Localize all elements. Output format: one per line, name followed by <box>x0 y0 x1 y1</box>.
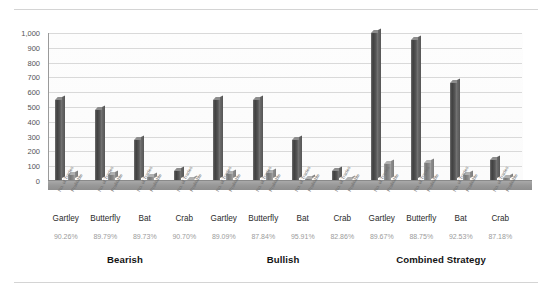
bar-side-face <box>418 36 421 178</box>
percent-label-7: 82.86% <box>330 233 354 240</box>
group-title-row: BearishBullishCombined Strategy <box>30 254 540 268</box>
category-label-7: Crab <box>333 214 351 223</box>
y-tick-label-400: 400 <box>0 117 40 126</box>
y-tick-label-0: 0 <box>0 177 40 186</box>
category-label-5: Butterfly <box>248 214 278 223</box>
bar-front-face <box>292 140 299 181</box>
bar-front-face <box>371 33 378 181</box>
y-tick-label-200: 200 <box>0 147 40 156</box>
bar-primary-9 <box>411 40 418 181</box>
y-tick-label-700: 700 <box>0 73 40 82</box>
percent-label-11: 87.18% <box>488 233 512 240</box>
group-title-bearish: Bearish <box>107 254 143 265</box>
category-label-1: Butterfly <box>90 214 120 223</box>
y-tick-label-800: 800 <box>0 58 40 67</box>
bar-side-face <box>260 95 263 178</box>
category-label-2: Bat <box>139 214 151 223</box>
category-label-row: GartleyButterflyBatCrabGartleyButterflyB… <box>30 214 540 227</box>
bar-primary-4 <box>213 100 220 181</box>
percent-label-10: 92.53% <box>449 233 473 240</box>
percent-label-8: 89.67% <box>370 233 394 240</box>
bar-front-face <box>95 110 102 181</box>
y-tick-label-900: 900 <box>0 43 40 52</box>
bar-primary-8 <box>371 33 378 181</box>
category-label-8: Gartley <box>369 214 395 223</box>
bar-front-face <box>490 160 497 181</box>
bar-series-container <box>48 33 522 181</box>
bar-primary-0 <box>55 100 62 181</box>
page-top-rule <box>14 9 538 10</box>
bar-primary-6 <box>292 140 299 181</box>
percent-label-0: 90.26% <box>54 233 78 240</box>
bar-primary-10 <box>450 83 457 181</box>
bar-front-face <box>213 100 220 181</box>
chart-page: 01002003004005006007008009001,000 No. of… <box>0 0 552 292</box>
y-axis-tick-labels: 01002003004005006007008009001,000 <box>0 33 44 181</box>
y-tick-label-100: 100 <box>0 162 40 171</box>
group-title-combined-strategy: Combined Strategy <box>396 254 486 265</box>
category-label-4: Gartley <box>211 214 237 223</box>
bar-front-face <box>55 100 62 181</box>
category-label-10: Bat <box>455 214 467 223</box>
bar-side-face <box>102 105 105 178</box>
percent-label-row: 90.26%89.79%89.73%90.70%89.09%87.84%95.9… <box>30 233 540 245</box>
bar-side-face <box>220 96 223 178</box>
category-label-11: Crab <box>491 214 509 223</box>
bar-primary-11 <box>490 160 497 181</box>
percent-label-9: 88.75% <box>409 233 433 240</box>
percent-label-4: 89.09% <box>212 233 236 240</box>
bar-primary-1 <box>95 110 102 181</box>
category-label-9: Butterfly <box>406 214 436 223</box>
bar-front-face <box>253 100 260 181</box>
bar-side-face <box>378 28 381 178</box>
percent-label-1: 89.79% <box>93 233 117 240</box>
bar-side-face <box>299 135 302 178</box>
y-tick-label-600: 600 <box>0 88 40 97</box>
percent-label-6: 95.91% <box>291 233 315 240</box>
bar-side-face <box>62 95 65 178</box>
bar-primary-5 <box>253 100 260 181</box>
percent-label-2: 89.73% <box>133 233 157 240</box>
bar-front-face <box>134 140 141 181</box>
category-label-6: Bat <box>297 214 309 223</box>
group-title-bullish: Bullish <box>267 254 300 265</box>
bar-side-face <box>457 79 460 178</box>
y-tick-label-300: 300 <box>0 132 40 141</box>
percent-label-3: 90.70% <box>172 233 196 240</box>
y-tick-label-1000: 1,000 <box>0 29 40 38</box>
category-label-3: Crab <box>175 214 193 223</box>
bar-side-face <box>141 135 144 178</box>
bar-front-face <box>411 40 418 181</box>
page-bottom-rule <box>14 282 538 283</box>
micro-tick-label-row: No. of TradesProfitableNo. of TradesProf… <box>48 190 532 212</box>
y-tick-label-500: 500 <box>0 103 40 112</box>
bar-primary-2 <box>134 140 141 181</box>
percent-label-5: 87.84% <box>251 233 275 240</box>
category-label-0: Gartley <box>53 214 79 223</box>
bar-front-face <box>450 83 457 181</box>
